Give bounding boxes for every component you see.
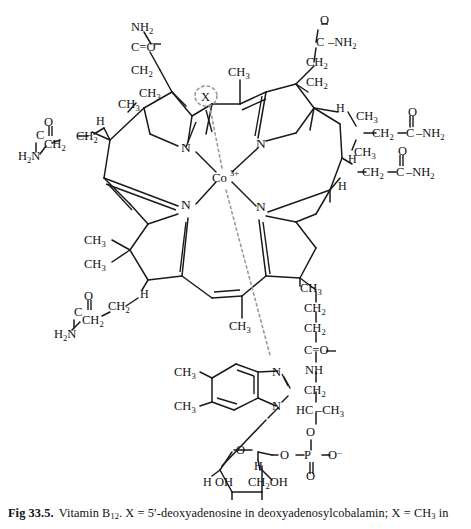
methylene-right: CH2 [362,165,384,181]
cobalt-center-label: Co 3+ [212,168,239,185]
carbonyl-carbon-right: C [396,165,404,179]
methylene-top-right-1: CH2 [306,75,328,91]
carbonyl-carbon-left: C [36,128,44,142]
axial-ligand-x-label: X [201,90,210,104]
hydrogen-top-right: H [336,101,345,115]
phosphate-oxygen-anion: O– [328,447,342,462]
methyl-top-left: CH3 [139,86,161,102]
methyl-right-upper: CH3 [354,145,376,161]
hydrogen-left: H [96,114,105,128]
cobalt-symbol: Co [212,171,227,185]
meso-bridge-left [104,108,178,224]
ring-nitrogen-top-left: N [181,140,191,155]
hydrogen-right-upper: H [348,152,357,166]
methyl-chain-terminal: –CH3 [315,403,344,419]
methyl-right-upper-2: CH3 [356,109,378,125]
methylene-left-2: CH2 [76,129,98,145]
ring-c-bottom-right [259,216,316,278]
meso-methyl-top: CH3 [228,65,250,81]
amide-nh2-right: –NH2 [405,165,435,181]
axial-bond-upper [209,103,222,168]
carbonyl-oxygen-right: O [398,144,407,158]
methylene-chain-1: CH2 [304,301,326,317]
carbonyl-chain: C=O [304,343,328,357]
carbonyl-oxygen-left: O [44,115,53,129]
amide-h2n-left: H2N [18,149,40,165]
phosphate-oxygen-double: O [306,469,315,483]
benzimidazole-methyl-2: CH3 [174,399,196,415]
caption-text-2: . X = 5 [119,506,154,520]
ester-oxygen: O [306,425,315,439]
ribose-hydroxymethyl: CH2OH [248,475,288,491]
ribose-hydroxyl: OH [215,475,233,489]
carbonyl-oxygen-bottom-left: O [84,289,93,303]
methyl-bottom-right: CH3 [300,281,322,297]
figure-caption: Fig 33.5.Vitamin B12. X = 5′-deoxyadenos… [8,506,470,521]
ring-a-top-left [144,92,196,147]
methylene-left-1: CH2 [44,137,66,153]
meso-bridge-right [268,108,342,222]
carbonyl-carbon-bottom-left: C [74,305,82,319]
amide-nh2-top-left: NH2 [131,20,153,36]
chemical-structure-svg: .bd{stroke:#1a1a1a;stroke-width:1.5;fill… [0,0,471,500]
amide-nh2-right-upper: –NH2 [415,126,445,142]
hydrogen-bottom-left: H [140,287,149,301]
benzimidazole-nitrogen-2: N [272,399,281,413]
vitamin-b12-structure-figure: .bd{stroke:#1a1a1a;stroke-width:1.5;fill… [0,0,471,500]
carbonyl-oxygen-right-upper: O [408,105,417,119]
ring-nitrogen-bottom-left: N [181,197,191,212]
methylene-top-left: CH2 [131,63,153,79]
gem-methyl-1: CH3 [84,233,106,249]
methylene-top-right-2: CH2 [306,55,328,71]
meso-methyl-bottom: CH3 [229,319,251,335]
ring-d-bottom-left [130,214,188,280]
amide-h2n-bottom-left: H2N [54,327,76,343]
gem-methyl-2: CH3 [84,257,106,273]
amide-oxygen-top-right: O [320,13,329,27]
caption-text-3: -deoxyadenosine in deoxyadenosylcobalami… [157,506,431,520]
methylene-chain-2: CH2 [304,321,326,337]
carbonyl-top-left: C=O [131,40,155,54]
benzimidazole-methyl-1: CH3 [174,365,196,381]
phosphorus-atom: P [304,448,311,462]
amide-carbon-top-right: C [316,35,324,49]
caption-text-1: Vitamin B [59,506,111,520]
ribose-hydrogen-1: H [254,459,263,473]
methylene-bottom-left-1: CH2 [82,313,104,329]
amide-nh2-top-right: –NH2 [327,35,357,51]
meso-bridge-top [192,80,266,134]
figure-number: Fig 33.5. [8,506,54,520]
ring-nitrogen-bottom-right: N [256,199,266,214]
hydrogen-right-lower: H [338,179,347,193]
methylene-bottom-left-2: CH2 [108,299,130,315]
benzimidazole-nitrogen-1: N [272,365,281,379]
amide-nh-chain: NH [305,363,323,377]
ribose-hydrogen-2: H [203,475,212,489]
methine-chain: HC [296,403,313,417]
meso-bridge-bottom [182,276,266,318]
carbonyl-carbon-right-upper: C [406,126,414,140]
caption-sub-12: 12 [110,512,119,521]
cobalt-nitrogen-bonds [196,148,258,206]
cobalt-charge: 3+ [230,168,239,178]
methylene-chain-3: CH2 [304,383,326,399]
caption-text-4: in [435,506,448,520]
methylene-right-upper: CH2 [372,126,394,142]
phosphate-ester-oxygen: O [280,448,289,462]
